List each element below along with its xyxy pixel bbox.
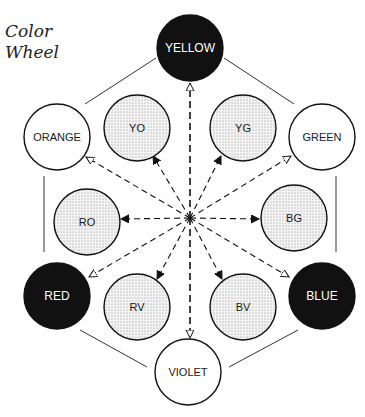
color-node-yg: YG <box>210 95 276 161</box>
label-yellow: YELLOW <box>165 41 216 55</box>
color-node-blue: BLUE <box>289 263 355 329</box>
label-violet: VIOLET <box>168 366 207 378</box>
label-bv: BV <box>236 301 251 313</box>
color-node-yo: YO <box>104 95 170 161</box>
label-ro: RO <box>79 216 96 228</box>
color-nodes: YELLOWORANGEGREENYOYGROBGREDBLUERVBVVIOL… <box>24 15 355 405</box>
color-node-ro: RO <box>54 189 120 255</box>
arrow-to-yo <box>153 156 190 218</box>
label-rv: RV <box>129 301 145 313</box>
color-node-bv: BV <box>210 274 276 340</box>
label-yg: YG <box>235 122 251 134</box>
label-red: RED <box>44 289 70 303</box>
color-wheel-diagram: YELLOWORANGEGREENYOYGROBGREDBLUERVBVVIOL… <box>0 0 365 417</box>
color-node-green: GREEN <box>289 104 355 170</box>
arrow-to-ro <box>121 218 190 219</box>
label-blue: BLUE <box>306 289 337 303</box>
label-green: GREEN <box>302 131 341 143</box>
color-node-violet: VIOLET <box>155 339 221 405</box>
color-node-bg: BG <box>261 185 327 251</box>
arrow-to-yg <box>190 156 221 218</box>
label-bg: BG <box>286 212 302 224</box>
label-yo: YO <box>129 122 145 134</box>
color-node-rv: RV <box>104 274 170 340</box>
color-node-orange: ORANGE <box>24 104 90 170</box>
arrow-to-bg <box>190 218 259 219</box>
label-orange: ORANGE <box>33 131 81 143</box>
color-node-red: RED <box>24 263 90 329</box>
arrow-to-rv <box>157 218 190 279</box>
arrow-to-bv <box>190 218 222 279</box>
color-node-yellow: YELLOW <box>157 15 223 81</box>
